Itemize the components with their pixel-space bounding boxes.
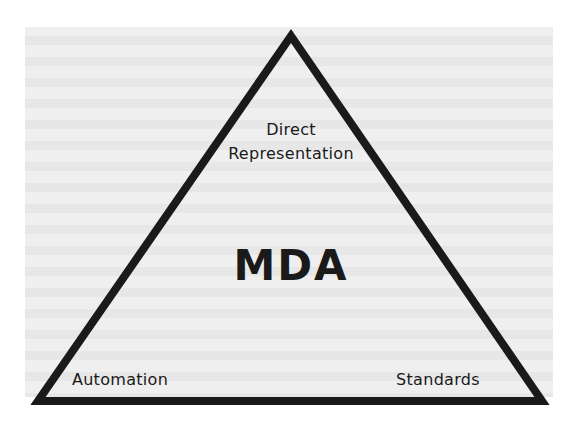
mda-triangle-diagram — [0, 0, 574, 430]
vertex-label-automation: Automation — [68, 369, 172, 391]
triangle-outline — [38, 36, 542, 401]
vertex-label-standards: Standards — [394, 369, 482, 391]
vertex-label-line: Direct — [191, 118, 391, 142]
center-label-mda: MDA — [191, 240, 391, 292]
vertex-label-line: Representation — [191, 142, 391, 166]
vertex-label-direct-representation: Direct Representation — [191, 118, 391, 166]
